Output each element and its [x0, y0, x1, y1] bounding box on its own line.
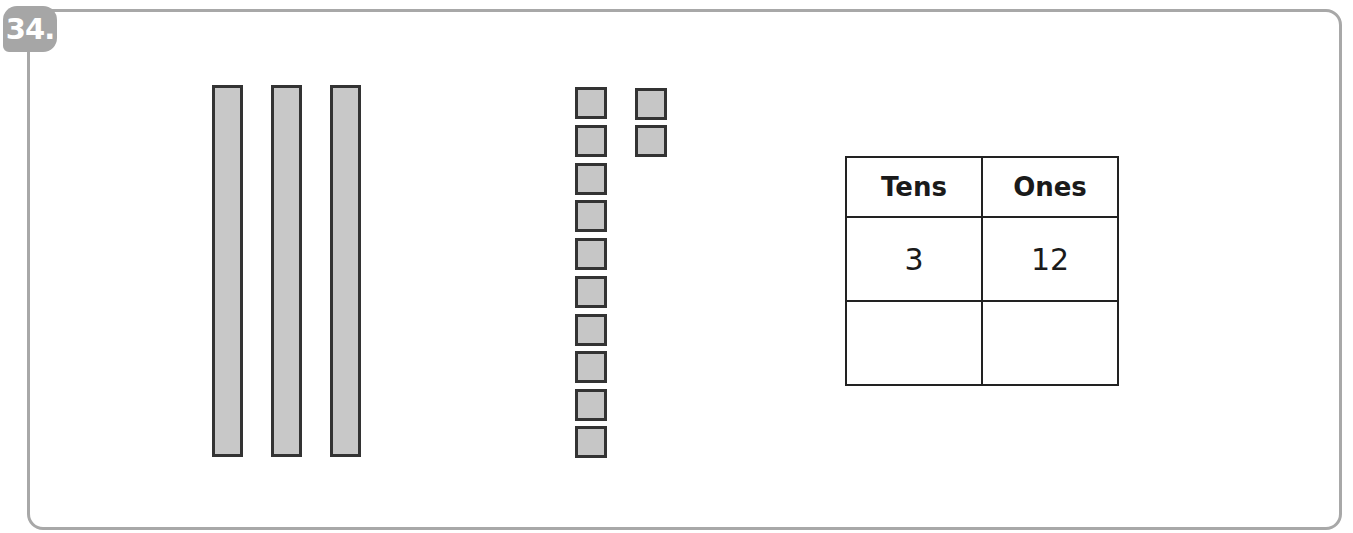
ones-answer-cell[interactable] — [982, 301, 1118, 385]
unit-cube — [575, 238, 607, 270]
unit-cube — [575, 87, 607, 119]
unit-cube — [575, 163, 607, 195]
problem-number-badge: 34. — [3, 6, 57, 52]
unit-cube — [575, 351, 607, 383]
tens-header: Tens — [846, 157, 982, 217]
unit-cube — [575, 314, 607, 346]
tens-answer-cell[interactable] — [846, 301, 982, 385]
unit-cube — [575, 426, 607, 458]
table-row-answer — [846, 301, 1118, 385]
unit-cube — [575, 389, 607, 421]
unit-cube — [635, 125, 667, 157]
unit-cube — [575, 200, 607, 232]
unit-cube — [635, 88, 667, 120]
place-value-table: Tens Ones 3 12 — [845, 156, 1119, 386]
tens-rod — [330, 85, 361, 457]
ones-value: 12 — [982, 217, 1118, 301]
unit-cube — [575, 125, 607, 157]
tens-rod — [271, 85, 302, 457]
ones-header: Ones — [982, 157, 1118, 217]
tens-rod — [212, 85, 243, 457]
unit-cube — [575, 276, 607, 308]
tens-value: 3 — [846, 217, 982, 301]
table-header-row: Tens Ones — [846, 157, 1118, 217]
table-row: 3 12 — [846, 217, 1118, 301]
